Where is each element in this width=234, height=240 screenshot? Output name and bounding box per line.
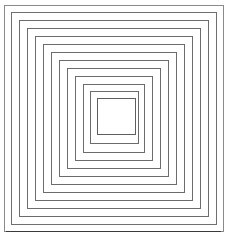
concentric-squares-figure [0, 0, 234, 240]
figure-canvas [0, 0, 234, 240]
